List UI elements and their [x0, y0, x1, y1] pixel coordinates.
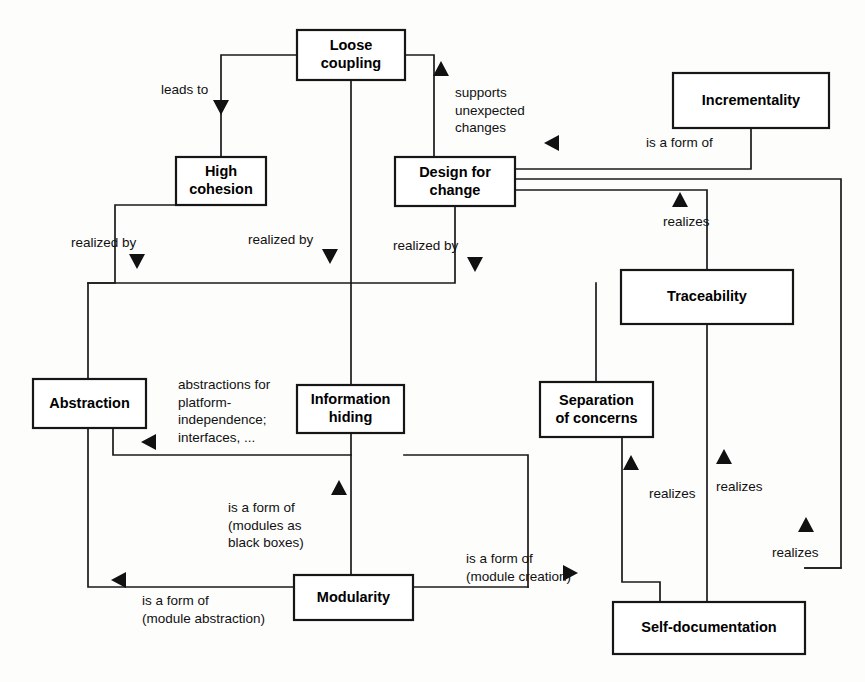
edges-layer	[88, 55, 841, 602]
edge-label-line: changes	[455, 120, 506, 135]
arrow-head-down-icon	[322, 249, 338, 264]
node-design-for-change[interactable]: Design forchange	[395, 157, 515, 206]
arrow-head-up-icon	[331, 480, 347, 495]
arrow-head-up-icon	[433, 61, 449, 76]
edge-label-line: is a form of	[646, 135, 713, 150]
edge-label-modularity-is-a-form-of-separation-of-concerns: is a form of(module creation)	[466, 551, 571, 584]
concept-relationship-diagram: LoosecouplingHighcohesionDesign forchang…	[0, 0, 865, 682]
edge-loose-coupling-to-high-cohesion	[213, 55, 297, 157]
edge-label-line: realizes	[649, 486, 696, 501]
node-label-line: Separation	[559, 391, 634, 407]
edge-loose-coupling-realized-by-information-hiding	[322, 80, 351, 385]
edge-label-loose-coupling-realized-by-information-hiding: realized by	[248, 232, 314, 247]
node-label-line: change	[430, 181, 481, 197]
edge-label-line: (module creation)	[466, 568, 571, 583]
edge-label-line: realizes	[716, 479, 763, 494]
edge-label-line: abstractions for	[178, 377, 271, 392]
node-label: Modularity	[317, 588, 390, 604]
node-information-hiding[interactable]: Informationhiding	[297, 385, 404, 433]
edge-label-self-documentation-realizes-design-for-change: realizes	[772, 545, 819, 560]
node-traceability[interactable]: Traceability	[621, 270, 793, 324]
edge-label-line: (modules as	[228, 517, 302, 532]
edge-label-design-for-change-supports-loose-coupling: supportsunexpectedchanges	[455, 85, 525, 135]
node-self-documentation[interactable]: Self-documentation	[613, 602, 805, 654]
edge-label-line: platform-	[178, 394, 231, 409]
edge-modularity-is-a-form-of-information-hiding	[331, 455, 351, 575]
arrow-head-left-icon	[544, 135, 559, 151]
node-label-line: Abstraction	[49, 394, 130, 410]
edge-design-for-change-supports-loose-coupling	[405, 55, 449, 157]
edge-self-documentation-realizes-separation-of-concerns	[622, 437, 660, 602]
arrow-head-down-icon	[467, 257, 483, 272]
edge-path	[221, 55, 297, 157]
arrow-head-up-icon	[623, 455, 639, 470]
node-incrementality[interactable]: Incrementality	[673, 73, 829, 128]
arrow-head-left-icon	[141, 434, 156, 450]
node-label: Traceability	[667, 288, 747, 304]
edge-path	[515, 179, 841, 568]
edge-label-line: leads to	[161, 82, 208, 97]
edge-label-line: is a form of	[466, 551, 533, 566]
edge-label-high-cohesion-realized-by-abstraction: realized by	[71, 235, 137, 250]
node-label-line: Design for	[419, 163, 491, 179]
node-label-line: cohesion	[189, 181, 253, 197]
edge-label-line: independence;	[178, 412, 267, 427]
edge-label-self-documentation-realizes-separation-of-concerns: realizes	[649, 486, 696, 501]
node-separation-of-concerns[interactable]: Separationof concerns	[540, 382, 653, 437]
edge-path	[405, 55, 434, 157]
arrow-head-left-icon	[111, 572, 126, 588]
node-label-line: Information	[311, 391, 391, 407]
node-label: Abstraction	[49, 394, 130, 410]
edge-label-line: realized by	[393, 238, 459, 253]
edge-label-design-for-change-realized-by-separation-of-concerns: realized by	[393, 238, 459, 253]
edge-traceability-realizes-design-for-change	[515, 190, 707, 270]
edge-path	[88, 205, 176, 379]
edge-design-for-change-spans-right	[515, 179, 841, 568]
node-label-line: Incrementality	[702, 91, 800, 107]
node-label-line: Modularity	[317, 588, 390, 604]
edge-label-information-hiding-abstraction-relation: abstractions forplatform-independence;in…	[178, 377, 271, 445]
edge-label-line: (module abstraction)	[142, 610, 265, 625]
arrow-head-up-icon	[672, 192, 688, 207]
edge-label-line: realized by	[71, 235, 137, 250]
node-label: Self-documentation	[641, 619, 776, 635]
edge-label-incrementality-is-a-form-of-design-for-change: is a form of	[646, 135, 713, 150]
edge-label-line: is a form of	[228, 500, 295, 515]
node-label-line: Loose	[330, 37, 373, 53]
edge-label-line: black boxes)	[228, 535, 304, 550]
node-high-cohesion[interactable]: Highcohesion	[176, 157, 266, 205]
edge-path	[515, 128, 751, 169]
edge-incrementality-is-a-form-of-design-for-change	[515, 128, 751, 169]
diagram-canvas-container: LoosecouplingHighcohesionDesign forchang…	[0, 0, 865, 682]
edge-label-loose-coupling-to-high-cohesion: leads to	[161, 82, 208, 97]
edge-label-line: realized by	[248, 232, 314, 247]
edge-label-modularity-is-a-form-of-information-hiding: is a form of(modules asblack boxes)	[228, 500, 304, 550]
arrow-head-down-icon	[129, 254, 145, 269]
node-label-line: High	[205, 163, 237, 179]
node-modularity[interactable]: Modularity	[294, 575, 413, 620]
edge-label-modularity-is-a-form-of-abstraction: is a form of(module abstraction)	[142, 593, 265, 626]
arrow-head-up-icon	[798, 517, 814, 532]
edge-label-line: interfaces, ...	[178, 429, 255, 444]
edge-self-documentation-realizes-design-for-change	[798, 517, 841, 568]
edge-label-line: realizes	[663, 214, 710, 229]
arrow-head-down-icon	[213, 100, 229, 115]
edge-high-cohesion-realized-by-abstraction	[88, 205, 176, 379]
node-label-line: Self-documentation	[641, 619, 776, 635]
edge-label-line: unexpected	[455, 102, 525, 117]
edge-label-self-documentation-realizes-traceability: realizes	[716, 479, 763, 494]
node-label-line: hiding	[329, 409, 373, 425]
node-label: Incrementality	[702, 91, 800, 107]
edge-label-line: supports	[455, 85, 507, 100]
node-label-line: Traceability	[667, 288, 747, 304]
arrow-head-up-icon	[716, 449, 732, 464]
node-label-line: of concerns	[555, 409, 637, 425]
edge-label-line: is a form of	[142, 593, 209, 608]
node-label-line: coupling	[321, 55, 381, 71]
edge-label-line: realizes	[772, 545, 819, 560]
nodes-layer: LoosecouplingHighcohesionDesign forchang…	[33, 30, 829, 654]
node-abstraction[interactable]: Abstraction	[33, 379, 146, 428]
node-loose-coupling[interactable]: Loosecoupling	[297, 30, 405, 80]
edge-self-documentation-realizes-traceability	[707, 324, 732, 602]
edge-label-traceability-realizes-design-for-change: realizes	[663, 214, 710, 229]
